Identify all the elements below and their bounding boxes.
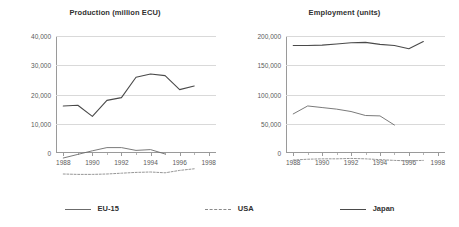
series-line-eu-15 (293, 106, 394, 125)
plot-area-employment: 050,000100,000150,000200,000 19881990199… (286, 36, 445, 153)
y-tick-label: 0 (277, 150, 281, 157)
legend-label: EU-15 (98, 204, 119, 213)
y-tick-label: 0 (47, 150, 51, 157)
chart-legend: EU-15USAJapan (0, 204, 459, 213)
legend-item-eu-15[interactable]: EU-15 (65, 204, 119, 213)
series-line-usa (293, 158, 423, 160)
series-layer-employment (286, 36, 445, 195)
y-tick-label: 20,000 (31, 91, 51, 98)
y-tick-label: 40,000 (31, 33, 51, 40)
y-tick-label: 200,000 (258, 33, 282, 40)
y-tick-label: 10,000 (31, 120, 51, 127)
plot-area-production: 010,00020,00030,00040,000 19881990199219… (56, 36, 216, 153)
legend-swatch-japan (340, 205, 366, 213)
series-layer-production (56, 36, 216, 196)
series-line-japan (293, 42, 423, 49)
y-tick-label: 150,000 (258, 62, 282, 69)
chart-title-production: Production (million ECU) (0, 8, 230, 17)
chart-panel-production: Production (million ECU) 010,00020,00030… (0, 0, 230, 182)
y-tick-label: 50,000 (261, 120, 281, 127)
legend-swatch-eu15 (65, 205, 91, 213)
series-line-eu-15 (63, 148, 165, 158)
chart-title-employment: Employment (units) (230, 8, 459, 17)
legend-item-usa[interactable]: USA (205, 204, 254, 213)
series-line-usa (63, 169, 194, 175)
legend-label: Japan (373, 204, 395, 213)
series-line-japan (63, 74, 194, 116)
legend-label: USA (238, 204, 254, 213)
y-tick-label: 30,000 (31, 62, 51, 69)
legend-swatch-usa (205, 205, 231, 213)
y-tick-label: 100,000 (258, 91, 282, 98)
two-panel-line-chart-figure: Production (million ECU) 010,00020,00030… (0, 0, 459, 227)
chart-panel-employment: Employment (units) 050,000100,000150,000… (230, 0, 459, 182)
legend-item-japan[interactable]: Japan (340, 204, 395, 213)
